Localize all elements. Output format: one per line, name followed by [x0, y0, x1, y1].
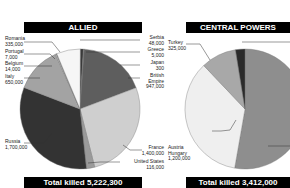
label-japan: Japan 300 — [142, 60, 164, 71]
label-serbia: Serbia 48,000 — [142, 35, 164, 46]
allied-title: ALLIED — [24, 22, 142, 33]
label-greece: Greece 5,000 — [142, 47, 164, 58]
allied-total: Total killed 5,222,300 — [24, 177, 142, 188]
central-powers-total: Total killed 3,412,000 — [186, 177, 290, 188]
central-powers-pie — [185, 49, 290, 169]
label-belgium: Belgium 14,000 — [5, 61, 23, 72]
allied-pie — [20, 49, 140, 169]
label-british-empire: British Empire 947,000 — [142, 73, 164, 90]
label-turkey: Turkey 325,000 — [168, 40, 186, 51]
label-france: France 1,400,000 — [140, 145, 164, 156]
label-romania: Romania 335,000 — [5, 36, 25, 47]
label-italy: Italy 650,000 — [5, 74, 23, 85]
label-portugal: Portugal 7,000 — [5, 49, 24, 60]
label-austria-hungary: Austria Hungary 1,200,000 — [168, 145, 190, 162]
label-united-states: United States 116,000 — [124, 159, 164, 170]
label-russia: Russia 1,700,000 — [5, 139, 27, 150]
central-powers-title: CENTRAL POWERS — [186, 22, 290, 33]
